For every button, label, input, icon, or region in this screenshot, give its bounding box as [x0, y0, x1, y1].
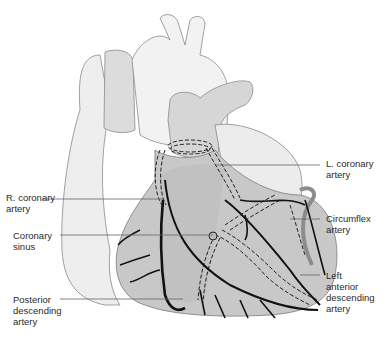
label-circumflex-artery: Circumflex artery — [326, 213, 371, 235]
label-posterior-descending-artery: Posterior descending artery — [13, 294, 62, 327]
heart-diagram: L. coronary artery R. coronary artery Ci… — [0, 0, 384, 340]
label-r-coronary-artery: R. coronary artery — [6, 192, 55, 214]
label-coronary-sinus: Coronary sinus — [13, 230, 52, 252]
label-l-coronary-artery: L. coronary artery — [326, 158, 374, 180]
label-left-anterior-descending-artery: Left anterior descending artery — [326, 270, 375, 314]
